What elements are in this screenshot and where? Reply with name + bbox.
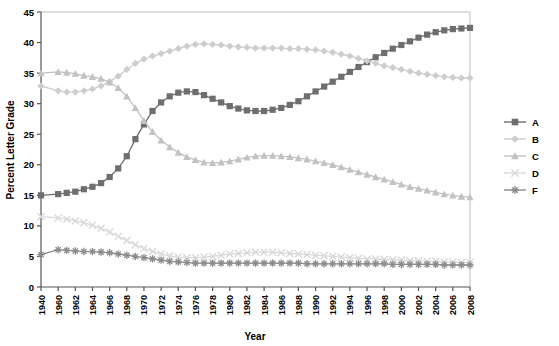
data-point-square [81,186,87,192]
data-point-square [89,184,95,190]
data-point-diamond [381,62,388,69]
data-point-diamond [218,41,225,48]
data-point-asterisk [303,260,310,267]
y-tick-label: 20 [23,159,34,170]
data-point-diamond [321,48,328,55]
data-point-square [107,174,113,180]
data-point-diamond [37,82,44,89]
data-point-square [98,180,104,186]
data-point-diamond [424,71,431,78]
data-point-x [89,222,96,229]
data-point-diamond [183,43,190,50]
data-point-diamond [235,43,242,50]
data-point-square [270,107,276,113]
legend-item-A[interactable]: A [504,117,539,128]
data-point-diamond [226,43,233,50]
data-point-asterisk [217,259,224,266]
data-point-square [458,25,464,31]
data-point-asterisk [381,260,388,267]
y-tick-label: 5 [29,251,35,262]
data-point-asterisk [441,261,448,268]
data-point-square [158,99,164,105]
data-point-asterisk [329,260,336,267]
x-tick-label: 1968 [122,295,132,315]
data-point-square [167,93,173,99]
legend-item-F[interactable]: F [504,185,538,196]
data-point-square [347,69,353,75]
legend-item-D[interactable]: D [504,168,539,179]
series-line-C [41,72,470,197]
x-tick-label: 1964 [88,295,98,315]
x-tick-label: 1960 [54,295,64,315]
chart-legend: ABCDF [504,117,539,196]
data-point-x [123,237,130,244]
data-point-square [201,92,207,98]
data-point-asterisk [458,261,465,268]
data-point-diamond [175,45,182,52]
series-layer [37,25,473,269]
legend-label-C: C [532,151,539,162]
axis-layer [37,12,470,291]
data-point-asterisk [80,248,87,255]
data-point-asterisk [175,258,182,265]
data-point-asterisk [423,261,430,268]
data-point-asterisk [183,259,190,266]
data-point-asterisk [235,259,242,266]
data-point-diamond [329,49,336,56]
y-tick-label: 30 [23,98,34,109]
legend-label-D: D [532,168,539,179]
data-point-square [261,108,267,114]
data-point-square [235,105,241,111]
data-point-square [304,93,310,99]
data-point-diamond [192,41,199,48]
legend-label-F: F [532,185,538,196]
series-F [37,246,473,269]
x-tick-label: 1980 [225,295,235,315]
data-point-diamond [466,74,473,81]
data-point-diamond [286,45,293,52]
x-tick-label: 1966 [105,295,115,315]
data-point-diamond [149,52,156,59]
data-point-asterisk [63,247,70,254]
data-point-square [433,29,439,35]
x-tick-label: 1984 [260,295,270,315]
data-point-diamond [406,68,413,75]
x-tick-label: 2008 [466,295,476,315]
data-point-asterisk [398,261,405,268]
data-point-diamond [260,44,267,51]
data-point-x [115,233,122,240]
data-point-square [124,153,130,159]
data-point-diamond [432,72,439,79]
y-tick-label: 0 [29,282,34,293]
data-point-square [512,119,519,126]
data-point-triangle [115,84,122,91]
legend-item-C[interactable]: C [504,151,539,162]
data-point-square [55,191,61,197]
data-point-asterisk [192,259,199,266]
y-tick-label: 25 [23,129,34,140]
data-point-square [210,96,216,102]
data-point-asterisk [226,259,233,266]
series-line-D [41,217,470,263]
data-point-square [72,189,78,195]
line-chart: 051015202530354045 194019601962196419661… [0,0,559,346]
x-tick-label: 1978 [208,295,218,315]
chart-container: 051015202530354045 194019601962196419661… [0,0,559,346]
data-point-diamond [441,73,448,80]
data-point-x [98,225,105,232]
y-tick-label: 35 [23,68,34,79]
data-point-x [149,248,156,255]
legend-item-B[interactable]: B [504,134,539,145]
x-tick-label: 1994 [345,295,355,315]
data-point-asterisk [312,260,319,267]
data-point-asterisk [243,259,250,266]
data-point-square [312,88,318,94]
data-point-diamond [389,64,396,71]
data-point-asterisk [140,254,147,261]
x-tick-label: 1986 [277,295,287,315]
data-point-square [330,79,336,85]
x-tick-label: 1996 [363,295,373,315]
data-point-asterisk [466,261,473,268]
data-point-square [390,46,396,52]
data-point-diamond [338,51,345,58]
